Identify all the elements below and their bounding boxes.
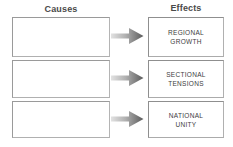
organizer-row: REGIONAL GROWTH xyxy=(0,17,233,57)
right-arrow-icon xyxy=(111,110,144,128)
right-arrow-icon xyxy=(111,69,144,87)
cause-input-box[interactable] xyxy=(12,101,110,138)
cause-input-box[interactable] xyxy=(12,60,110,98)
effect-box: NATIONAL UNITY xyxy=(148,101,224,138)
effect-label-line: GROWTH xyxy=(168,37,204,46)
cause-effect-organizer: Causes Effects REGIONAL GROWTH xyxy=(0,0,233,147)
effect-label-line: UNITY xyxy=(169,120,203,129)
cause-input-box[interactable] xyxy=(12,17,110,57)
effect-label-line: TENSIONS xyxy=(166,79,206,88)
effect-label: SECTIONAL TENSIONS xyxy=(163,70,209,88)
right-arrow-icon xyxy=(111,27,144,45)
effect-label: NATIONAL UNITY xyxy=(166,111,206,129)
effect-label-line: REGIONAL xyxy=(168,28,204,37)
organizer-row: SECTIONAL TENSIONS xyxy=(0,60,233,98)
effect-box: SECTIONAL TENSIONS xyxy=(148,60,224,98)
effect-label: REGIONAL GROWTH xyxy=(165,28,207,46)
effect-label-line: NATIONAL xyxy=(169,111,203,120)
effects-column-heading: Effects xyxy=(148,3,224,14)
effect-label-line: SECTIONAL xyxy=(166,70,206,79)
effect-box: REGIONAL GROWTH xyxy=(148,17,224,57)
causes-column-heading: Causes xyxy=(12,4,110,15)
organizer-row: NATIONAL UNITY xyxy=(0,101,233,138)
